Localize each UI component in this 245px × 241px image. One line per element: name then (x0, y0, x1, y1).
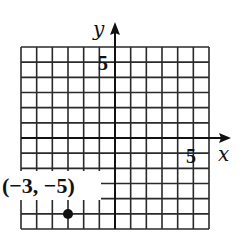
data-point (63, 209, 73, 219)
point-annotation: (−3, −5) (2, 173, 75, 198)
x-tick-label-5: 5 (186, 145, 196, 167)
y-axis-label: y (92, 17, 105, 41)
x-axis-label: x (218, 142, 229, 166)
y-tick-label-5: 5 (98, 52, 108, 74)
coordinate-plane: y x 5 5 (−3, −5) (0, 0, 245, 241)
